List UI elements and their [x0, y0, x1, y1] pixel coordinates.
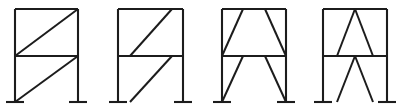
frame-2	[109, 9, 192, 102]
frame-4	[314, 9, 396, 102]
lower-left-brace	[222, 56, 243, 102]
lower-left-brace	[337, 56, 355, 102]
frame-3	[213, 9, 295, 102]
braced-frame-figure	[0, 0, 397, 112]
lower-diagonal-brace	[15, 56, 78, 102]
frame-1	[6, 9, 87, 102]
lower-right-brace	[265, 56, 286, 102]
frames-layer	[6, 9, 396, 102]
upper-diagonal-brace	[15, 9, 78, 56]
upper-diagonal-brace	[130, 9, 172, 56]
upper-right-brace	[265, 9, 286, 56]
frames-diagram	[0, 0, 397, 112]
upper-right-brace	[355, 9, 373, 56]
upper-left-brace	[337, 9, 355, 56]
lower-diagonal-brace	[130, 56, 172, 102]
lower-right-brace	[355, 56, 373, 102]
upper-left-brace	[222, 9, 243, 56]
